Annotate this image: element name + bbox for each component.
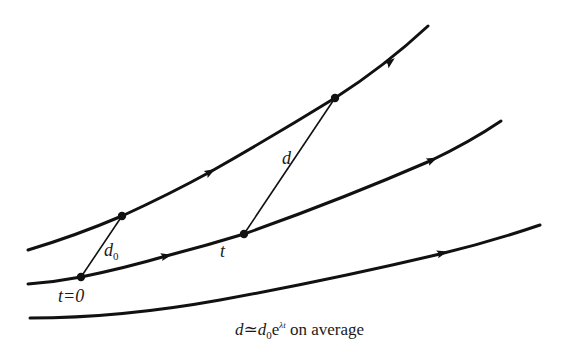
label-t: t: [220, 241, 225, 262]
point-t-traj1: [331, 94, 339, 102]
point-t-traj2: [240, 230, 248, 238]
formula-d0: d: [258, 320, 267, 339]
formula-approx-symbol: ≃: [244, 320, 258, 339]
label-t0-text: t=0: [58, 286, 84, 306]
label-t-equals-0: t=0: [58, 286, 84, 307]
trajectory-1: [28, 26, 428, 250]
trajectory-2-arrow-icon-2: [426, 154, 439, 166]
label-d0: d0: [104, 240, 119, 262]
point-t0-traj2: [77, 273, 85, 281]
formula-label: d≃d0eλt on average: [235, 319, 364, 341]
formula-suffix: on average: [286, 320, 364, 339]
formula-d: d: [235, 320, 244, 339]
label-d0-subscript: 0: [113, 250, 119, 262]
trajectory-diagram: [0, 0, 567, 364]
point-t0-traj1: [118, 212, 126, 220]
label-d: d: [282, 148, 291, 169]
label-d0-main: d: [104, 240, 113, 260]
diagram-canvas: d0 d t t=0 d≃d0eλt on average: [0, 0, 567, 364]
